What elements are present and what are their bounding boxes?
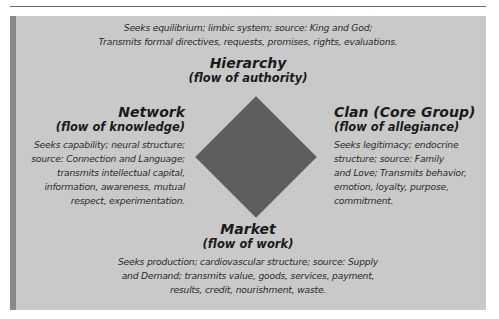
market-section: Market (flow of work) Seeks production; … <box>10 221 486 297</box>
market-desc-line: Seeks production; cardiovascular structu… <box>10 255 486 269</box>
network-desc-line: source: Connection and Language; <box>20 152 185 166</box>
market-desc-line: and Demand; transmits value, goods, serv… <box>10 269 486 283</box>
network-title: Network <box>20 104 185 120</box>
network-desc-line: respect, experimentation. <box>20 194 185 208</box>
clan-desc-line: and Love; Transmits behavior, <box>334 166 484 180</box>
clan-title: Clan (Core Group) <box>334 104 484 120</box>
clan-section: Clan (Core Group) (flow of allegiance) S… <box>334 104 484 208</box>
network-section: Network (flow of knowledge) Seeks capabi… <box>20 104 185 208</box>
center-diamond <box>195 96 317 218</box>
clan-desc-line: emotion, loyalty, purpose, <box>334 180 484 194</box>
hierarchy-subtitle: (flow of authority) <box>10 71 486 86</box>
market-title: Market <box>10 221 486 237</box>
clan-desc-line: commitment. <box>334 194 484 208</box>
top-rule <box>10 6 486 7</box>
network-desc-line: information, awareness, mutual <box>20 180 185 194</box>
network-subtitle: (flow of knowledge) <box>20 120 185 135</box>
hierarchy-title: Hierarchy <box>10 55 486 71</box>
clan-desc-line: Seeks legitimacy; endocrine <box>334 138 484 152</box>
hierarchy-desc-line: Transmits formal directives, requests, p… <box>10 35 486 49</box>
market-desc-line: results, credit, nourishment, waste. <box>10 283 486 297</box>
market-subtitle: (flow of work) <box>10 237 486 252</box>
diagram-panel: Seeks equilibrium; limbic system; source… <box>10 16 486 310</box>
hierarchy-section: Seeks equilibrium; limbic system; source… <box>10 21 486 86</box>
network-desc-line: transmits intellectual capital, <box>20 166 185 180</box>
clan-subtitle: (flow of allegiance) <box>334 120 484 135</box>
hierarchy-desc-line: Seeks equilibrium; limbic system; source… <box>10 21 486 35</box>
network-desc-line: Seeks capability; neural structure; <box>20 138 185 152</box>
clan-desc-line: structure; source: Family <box>334 152 484 166</box>
